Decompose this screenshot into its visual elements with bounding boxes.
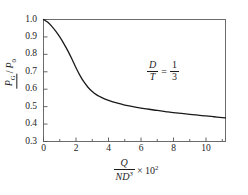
x-label-denominator-exponent: 3 — [129, 170, 132, 177]
y-label-denominator-sub: 0 — [10, 59, 17, 62]
y-label-numerator-sub: G — [9, 75, 16, 80]
annotation-equals: = — [158, 66, 170, 77]
x-tick-label: 2 — [68, 144, 84, 154]
chart-figure: 0.30.40.50.60.70.80.91.0 0246810 PG / P0… — [0, 0, 248, 195]
y-tick-label: 0.4 — [11, 119, 37, 129]
annotation-denominator: T — [147, 72, 158, 83]
x-tick-label: 8 — [166, 144, 182, 154]
x-label-multiplier-exponent: 2 — [155, 164, 158, 171]
x-label-multiplier: × 10 — [137, 166, 155, 177]
y-axis-label: PG / P0 — [4, 51, 17, 95]
x-tick-label: 0 — [36, 144, 52, 154]
y-tick-label: 0.9 — [11, 32, 37, 42]
annotation-value-denominator: 3 — [170, 72, 179, 83]
x-label-denominator: ND — [116, 171, 130, 182]
x-axis-label: Q ND3 × 102 — [88, 158, 184, 183]
y-label-denominator: P — [4, 62, 15, 68]
x-label-numerator: Q — [114, 158, 135, 170]
y-tick-label: 0.5 — [11, 102, 37, 112]
diameter-ratio-annotation: D T = 1 3 — [147, 60, 179, 83]
y-tick-label: 1.0 — [11, 15, 37, 25]
x-tick-label: 10 — [198, 144, 214, 154]
plot-frame — [44, 20, 226, 142]
x-tick-label: 6 — [133, 144, 149, 154]
x-tick-label: 4 — [101, 144, 117, 154]
y-tick-label: 0.3 — [11, 137, 37, 147]
y-label-numerator: P — [3, 80, 14, 86]
